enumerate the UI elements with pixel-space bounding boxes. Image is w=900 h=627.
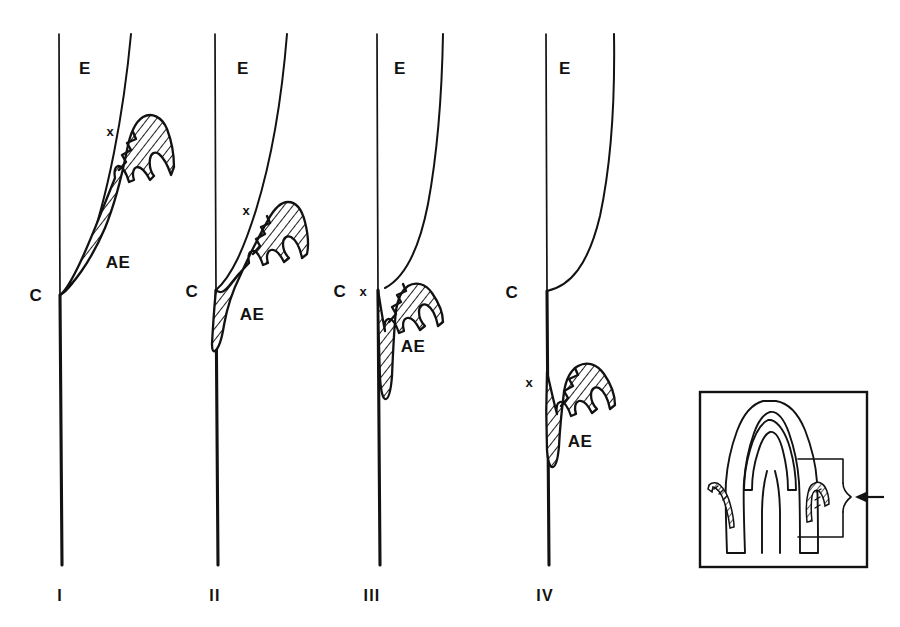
panel-II-roman-numeral: II [209, 587, 220, 604]
panel-IV-cej-label: C [506, 283, 519, 302]
panel-IV-marker-x: x [525, 375, 533, 390]
panel-IV-roman-numeral: IV [536, 587, 554, 604]
panel-II-marker-x: x [242, 203, 250, 218]
panel-I-ae-label: AE [106, 253, 131, 272]
panel-I-enamel-label: E [79, 59, 91, 78]
panel-II-ae-label: AE [240, 305, 265, 324]
panel-III-ae-label: AE [401, 337, 426, 356]
panel-III-marker-x: x [359, 284, 367, 299]
figure-root: E C AE x I E C AE x II [0, 0, 900, 627]
panel-I-dentin-line [59, 34, 60, 295]
dental-attachment-epithelium-figure: E C AE x I E C AE x II [0, 0, 900, 627]
panel-IV-dentin-line [546, 34, 547, 291]
panel-III-cej-label: C [334, 282, 347, 301]
panel-I-root-surface [60, 295, 62, 565]
panel-III-roman-numeral: III [364, 587, 381, 604]
panel-I-roman-numeral: I [57, 587, 63, 604]
panel-IV-ae-label: AE [568, 432, 593, 451]
panel-I-marker-x: x [106, 124, 114, 139]
figure-background [0, 0, 900, 627]
panel-III-dentin-line [377, 34, 378, 290]
panel-III-enamel-label: E [394, 59, 406, 78]
panel-II-enamel-label: E [237, 59, 249, 78]
panel-II-dentin-line [215, 34, 216, 290]
panel-II-cej-label: C [186, 282, 199, 301]
panel-I-cej-label: C [30, 286, 43, 305]
panel-IV-enamel-label: E [559, 59, 571, 78]
